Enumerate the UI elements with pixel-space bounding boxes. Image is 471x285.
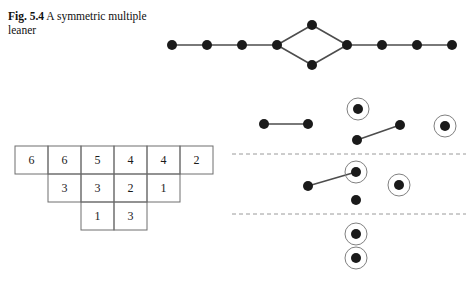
top-graph-node (447, 40, 457, 50)
band-1-node (303, 119, 313, 129)
tableau-cell-value: 3 (128, 209, 134, 223)
top-graph-node (307, 20, 317, 30)
band-3 (345, 223, 367, 269)
top-graph-edge (277, 45, 312, 65)
top-graph-edge (277, 25, 312, 45)
top-graph-edge (312, 25, 347, 45)
tableau-cell-value: 3 (95, 181, 101, 195)
band-1 (259, 98, 456, 145)
band-2-edge (308, 172, 356, 186)
band-2-node (394, 180, 404, 190)
top-graph-node (377, 40, 387, 50)
top-graph (167, 20, 457, 70)
figure-diagram-canvas: 665442332113 (0, 0, 471, 285)
tableau-cell-value: 1 (95, 209, 101, 223)
top-graph-edge (312, 45, 347, 65)
tableau-cell-value: 4 (128, 153, 134, 167)
band-1-node (352, 135, 362, 145)
top-graph-node (237, 40, 247, 50)
tableau-cell-value: 3 (62, 181, 68, 195)
tableau-cell-value: 5 (95, 153, 101, 167)
band-3-node (351, 229, 361, 239)
top-graph-node (272, 40, 282, 50)
band-2 (303, 161, 410, 205)
tableau-cell-value: 6 (62, 153, 68, 167)
tableau-grid: 665442332113 (15, 146, 213, 230)
band-3-node (351, 253, 361, 263)
decomposition-bands (259, 98, 456, 269)
band-1-node (395, 120, 405, 130)
tableau-cell-value: 2 (194, 153, 200, 167)
top-graph-node (307, 60, 317, 70)
top-graph-node (202, 40, 212, 50)
tableau-cell-value: 6 (29, 153, 35, 167)
band-1-node (353, 104, 363, 114)
band-2-node (351, 195, 361, 205)
top-graph-node (412, 40, 422, 50)
tableau-cell-value: 2 (128, 181, 134, 195)
band-1-node (440, 121, 450, 131)
band-2-node (303, 181, 313, 191)
top-graph-node (167, 40, 177, 50)
band-1-edge (357, 125, 400, 140)
band-2-node (351, 167, 361, 177)
figure-root: Fig. 5.4 A symmetric multiple leaner 665… (0, 0, 471, 285)
top-graph-node (342, 40, 352, 50)
band-1-node (259, 119, 269, 129)
tableau-cell-value: 4 (161, 153, 167, 167)
tableau-cell-value: 1 (161, 181, 167, 195)
